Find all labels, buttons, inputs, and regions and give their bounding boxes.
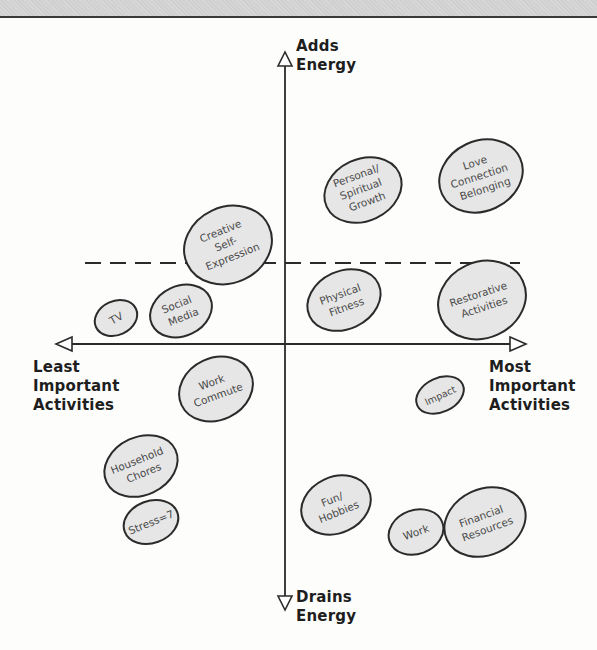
axis-label-most-important: Most Important Activities (489, 358, 576, 415)
bubble-stress: Stress=7 (118, 493, 185, 552)
arrow-right-icon (510, 337, 526, 351)
arrow-left-icon (56, 337, 72, 351)
axis-label-line: Energy (296, 56, 356, 75)
axis-label-line: Energy (296, 607, 356, 626)
arrow-up-icon (278, 52, 292, 66)
bubble-creative-self-expression: Creative Self- Expression (171, 192, 285, 299)
bubble-personal-spiritual-growth: Personal/ Spiritual Growth (314, 145, 413, 235)
axis-label-line: Important (489, 377, 576, 396)
arrow-down-icon (278, 596, 292, 610)
bubble-physical-fitness: Physical Fitness (297, 258, 390, 343)
bubble-work: Work (382, 502, 450, 562)
axis-label-line: Important (33, 377, 120, 396)
bubble-financial-resources: Financial Resources (433, 474, 537, 569)
axis-label-line: Adds (296, 37, 356, 56)
axis-label-line: Most (489, 358, 576, 377)
axis-label-line: Activities (489, 396, 576, 415)
axis-label-line: Drains (296, 588, 356, 607)
bubble-social-media: Social Media (141, 275, 220, 347)
axis-label-adds-energy: Adds Energy (296, 37, 356, 75)
energy-importance-matrix: Creative Self- Expression Personal/ Spir… (0, 0, 597, 650)
bubble-household-chores: Household Chores (94, 424, 187, 509)
bubble-impact: Impact (410, 369, 470, 421)
axis-label-line: Least (33, 358, 120, 377)
bubble-love-connection-belonging: Love Connection Belonging (427, 126, 535, 226)
bubble-tv: TV (89, 293, 143, 342)
axis-label-drains-energy: Drains Energy (296, 588, 356, 626)
bubble-work-commute: Work Commute (168, 345, 263, 433)
bubble-fun-hobbies: Fun/ Hobbies (292, 464, 381, 545)
axis-label-line: Activities (33, 396, 120, 415)
axis-label-least-important: Least Important Activities (33, 358, 120, 415)
